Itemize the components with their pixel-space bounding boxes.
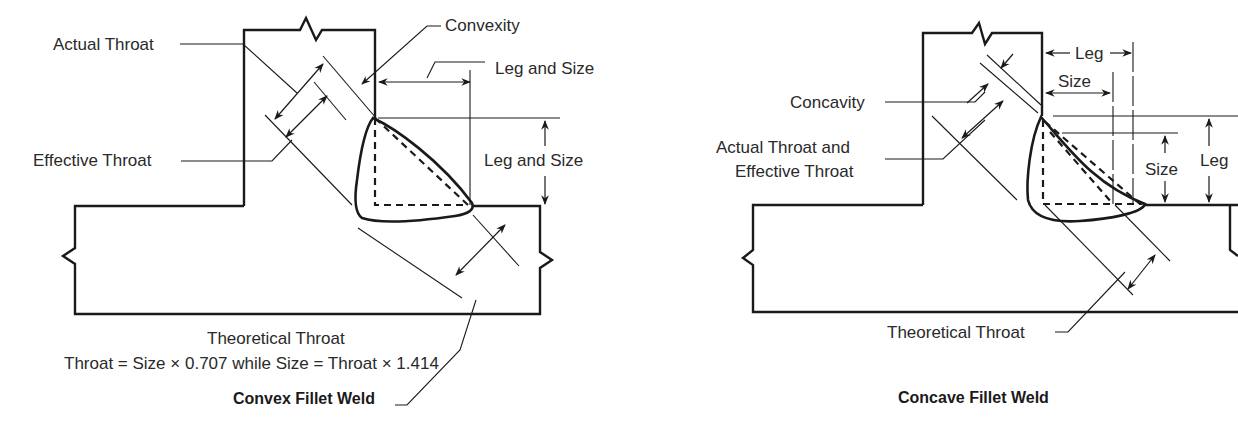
label-leg-vertical: Leg — [1200, 151, 1228, 170]
concavity-line-b — [987, 55, 1041, 105]
base-plate-right-edge — [1230, 205, 1238, 256]
effective-throat-dimension — [286, 96, 327, 137]
label-leg-and-size-vertical: Leg and Size — [484, 151, 583, 170]
label-leg-horizontal: Leg — [1075, 44, 1103, 63]
concavity-arrow-outer — [1001, 54, 1013, 68]
actual-throat-dimension — [962, 101, 1003, 138]
label-concavity: Concavity — [790, 93, 865, 112]
effective-throat-leader — [181, 140, 292, 161]
concave-title: Concave Fillet Weld — [898, 389, 1049, 406]
actual-throat-base-line — [265, 115, 352, 205]
label-effective-throat: Effective Throat — [33, 151, 152, 170]
convexity-line — [323, 56, 376, 118]
actual-throat-dimension — [275, 64, 323, 119]
theoretical-throat-leader — [395, 300, 476, 405]
theoretical-throat-dimension — [1128, 255, 1155, 289]
label-actual-throat: Actual Throat — [53, 35, 154, 54]
vertical-plate — [923, 23, 1042, 205]
base-plate — [63, 206, 552, 314]
label-size-horizontal: Size — [1058, 72, 1091, 91]
convex-title: Convex Fillet Weld — [233, 390, 375, 407]
label-theoretical-throat: Theoretical Throat — [887, 323, 1025, 342]
label-actual-effective-line2: Effective Throat — [735, 162, 854, 181]
theoretical-throat-line-a — [358, 228, 462, 298]
label-convexity: Convexity — [445, 16, 520, 35]
label-leg-and-size-horizontal: Leg and Size — [495, 59, 594, 78]
actual-throat-leader — [180, 44, 297, 93]
theoretical-throat-line-b — [473, 215, 519, 266]
leg-size-h-leader — [427, 62, 485, 78]
effective-throat-line — [314, 82, 346, 120]
vertical-plate — [244, 18, 375, 206]
theoretical-throat-dimension — [456, 225, 505, 275]
throat-formula: Throat = Size × 0.707 while Size = Throa… — [64, 354, 439, 373]
label-theoretical-throat: Theoretical Throat — [207, 329, 345, 348]
theoretical-throat-leader — [1055, 272, 1125, 332]
label-actual-effective-line1: Actual Throat and — [716, 138, 850, 157]
concavity-line-a — [980, 63, 1038, 113]
convex-fillet-weld-figure: Actual Throat Convexity Leg and Size Eff… — [33, 16, 594, 407]
concave-fillet-weld-figure: Leg Size Concavity Actual Throat and Eff… — [716, 23, 1238, 406]
theoretical-throat-line-b — [1115, 205, 1170, 261]
label-size-vertical: Size — [1145, 160, 1178, 179]
base-plate — [743, 205, 1238, 312]
fillet-weld-diagram: Actual Throat Convexity Leg and Size Eff… — [0, 0, 1238, 421]
